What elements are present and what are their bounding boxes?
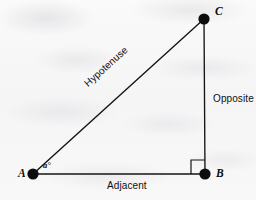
vertex-dot-c (198, 13, 209, 24)
vertex-label-b: B (216, 168, 224, 180)
hypotenuse-side-line (33, 19, 204, 174)
vertex-dot-b (199, 168, 210, 179)
angle-label-a: a° (43, 161, 51, 170)
triangle-diagram: A B C a° Hypotenuse Opposite Adjacent (0, 0, 256, 200)
vertex-dot-a (27, 168, 38, 179)
vertex-label-a: A (18, 168, 26, 180)
opposite-label: Opposite (213, 94, 254, 104)
adjacent-label: Adjacent (107, 181, 147, 191)
vertex-label-c: C (215, 6, 223, 18)
opposite-side-line (204, 19, 205, 174)
